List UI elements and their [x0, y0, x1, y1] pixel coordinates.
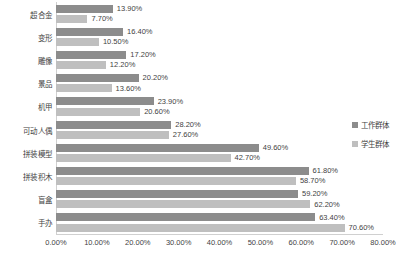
category-label: 拼装模型 — [23, 147, 52, 158]
bar-value-label: 13.90% — [117, 5, 142, 13]
bar[interactable] — [56, 5, 113, 13]
legend-swatch-icon — [352, 122, 358, 128]
bar-row: 机甲23.90%20.60% — [56, 95, 383, 118]
bar-group-0: 28.20% — [56, 121, 383, 129]
x-tick-label: 70.00% — [329, 238, 354, 247]
bar-value-label: 62.20% — [314, 201, 339, 209]
bar-group-1: 27.60% — [56, 131, 383, 139]
bar-group-0: 23.90% — [56, 97, 383, 105]
bar-group-0: 49.60% — [56, 144, 383, 152]
bar-group-1: 62.20% — [56, 200, 383, 208]
bar[interactable] — [56, 131, 169, 139]
bar-row: 雕像17.20%12.20% — [56, 48, 383, 71]
bar-value-label: 63.40% — [319, 214, 344, 222]
bar-value-label: 61.80% — [313, 167, 338, 175]
bar-group-0: 61.80% — [56, 167, 383, 175]
x-tick-label: 0.00% — [45, 238, 66, 247]
bar-value-label: 20.60% — [144, 108, 169, 116]
bar-row: 变形16.40%10.50% — [56, 25, 383, 48]
legend-swatch-icon — [352, 141, 358, 147]
bar[interactable] — [56, 190, 298, 198]
bar-group-0: 63.40% — [56, 213, 383, 221]
bar[interactable] — [56, 108, 140, 116]
bar[interactable] — [56, 28, 123, 36]
bar-value-label: 58.70% — [300, 177, 325, 185]
x-tick-label: 10.00% — [84, 238, 109, 247]
bar-value-label: 42.70% — [235, 154, 260, 162]
bar-group-1: 12.20% — [56, 61, 383, 69]
bar-value-label: 49.60% — [263, 144, 288, 152]
category-label: 变形 — [38, 31, 52, 42]
bar[interactable] — [56, 74, 139, 82]
bar[interactable] — [56, 15, 87, 23]
category-label: 手办 — [38, 217, 52, 228]
bar-row: 拼装模型49.60%42.70% — [56, 141, 383, 164]
bar-row: 手办63.40%70.60% — [56, 211, 383, 234]
category-label: 雕像 — [38, 55, 52, 66]
bar[interactable] — [56, 97, 154, 105]
bar-value-label: 28.20% — [175, 121, 200, 129]
bar[interactable] — [56, 121, 171, 129]
x-tick-label: 40.00% — [207, 238, 232, 247]
bar-group-1: 13.60% — [56, 84, 383, 92]
bar-row: 超合金13.90%7.70% — [56, 2, 383, 25]
bar-group-1: 20.60% — [56, 108, 383, 116]
category-label: 超合金 — [30, 8, 52, 19]
bar-group-0: 59.20% — [56, 190, 383, 198]
bar-value-label: 7.70% — [91, 15, 112, 23]
legend-label: 学生群体 — [361, 138, 389, 149]
bar-value-label: 10.50% — [103, 38, 128, 46]
bar-value-label: 27.60% — [173, 131, 198, 139]
bar-row: 可动人偶28.20%27.60% — [56, 118, 383, 141]
category-label: 景品 — [38, 78, 52, 89]
category-label: 盲盒 — [38, 194, 52, 205]
bar[interactable] — [56, 144, 259, 152]
bar-value-label: 70.60% — [349, 224, 374, 232]
x-axis-line — [56, 234, 383, 235]
bar-group-0: 17.20% — [56, 51, 383, 59]
bar-row: 拼装积木61.80%58.70% — [56, 164, 383, 187]
bar[interactable] — [56, 51, 126, 59]
category-label: 机甲 — [38, 101, 52, 112]
bar-value-label: 13.60% — [116, 85, 141, 93]
bar-value-label: 23.90% — [158, 98, 183, 106]
bar[interactable] — [56, 38, 99, 46]
bar-group-1: 10.50% — [56, 38, 383, 46]
bar[interactable] — [56, 177, 296, 185]
bar[interactable] — [56, 61, 106, 69]
bar-row: 盲盒59.20%62.20% — [56, 188, 383, 211]
bar[interactable] — [56, 200, 310, 208]
bar-value-label: 16.40% — [127, 28, 152, 36]
legend-label: 工作群体 — [361, 119, 389, 130]
x-tick-label: 30.00% — [166, 238, 191, 247]
bar-group-1: 7.70% — [56, 15, 383, 23]
legend-item-1[interactable]: 学生群体 — [352, 138, 389, 149]
bar-group-1: 42.70% — [56, 154, 383, 162]
chart-legend: 工作群体学生群体 — [352, 119, 389, 149]
bar-group-0: 13.90% — [56, 5, 383, 13]
bar-group-1: 58.70% — [56, 177, 383, 185]
bar-value-label: 12.20% — [110, 61, 135, 69]
bar-row: 景品20.20%13.60% — [56, 72, 383, 95]
legend-item-0[interactable]: 工作群体 — [352, 119, 389, 130]
bar-value-label: 20.20% — [143, 74, 168, 82]
bar-group-0: 16.40% — [56, 28, 383, 36]
x-tick-label: 50.00% — [248, 238, 273, 247]
x-axis-tick-labels: 0.00%10.00%20.00%30.00%40.00%50.00%60.00… — [0, 238, 395, 252]
x-tick-label: 80.00% — [370, 238, 395, 247]
bar[interactable] — [56, 224, 345, 232]
category-label: 拼装积木 — [23, 171, 52, 182]
bar-value-label: 17.20% — [130, 51, 155, 59]
x-tick-label: 20.00% — [125, 238, 150, 247]
category-label: 可动人偶 — [23, 124, 52, 135]
bar-rows: 超合金13.90%7.70%变形16.40%10.50%雕像17.20%12.2… — [56, 2, 383, 234]
bar-value-label: 59.20% — [302, 190, 327, 198]
plot-area: 超合金13.90%7.70%变形16.40%10.50%雕像17.20%12.2… — [56, 2, 383, 234]
bar[interactable] — [56, 213, 315, 221]
x-tick-label: 60.00% — [289, 238, 314, 247]
bar[interactable] — [56, 167, 309, 175]
bar[interactable] — [56, 154, 231, 162]
bar[interactable] — [56, 84, 112, 92]
bar-group-0: 20.20% — [56, 74, 383, 82]
